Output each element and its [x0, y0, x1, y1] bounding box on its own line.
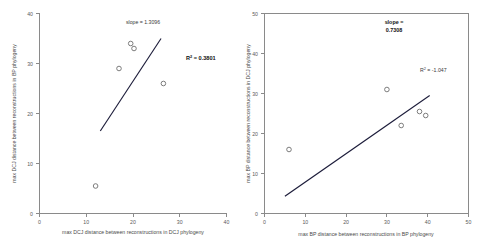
- y-tick-label-50: 50: [252, 11, 258, 17]
- y-axis-title: max BP distance between reconstructions …: [245, 44, 251, 183]
- y-tick-label-0: 0: [255, 211, 258, 217]
- slope-annotation: slope = 1.3096: [126, 19, 160, 25]
- data-point: [385, 87, 390, 92]
- y-tick-label-0: 0: [30, 211, 33, 217]
- x-tick-label-10: 10: [302, 219, 308, 225]
- data-point: [117, 66, 122, 71]
- x-tick-label-30: 30: [384, 219, 390, 225]
- slope-annotation-line1: slope =: [385, 19, 404, 25]
- y-tick-label-20: 20: [252, 131, 258, 137]
- x-tick-label-0: 0: [38, 219, 41, 225]
- slope-annotation: slope = 0.7308: [385, 19, 404, 33]
- data-point: [417, 109, 422, 114]
- x-tick-label-40: 40: [224, 219, 230, 225]
- data-point: [93, 184, 98, 189]
- chart-panel-right: 0 10 20 30 40 50 0 10 20 30 40 50: [242, 0, 484, 248]
- regression-line: [285, 96, 430, 197]
- regression-line: [100, 39, 161, 132]
- right-chart-x-ticks: 0 10 20 30 40 50: [263, 214, 471, 226]
- r-squared-annotation: R2 = -1.047: [420, 66, 447, 74]
- y-axis-title: max DCJ distance between reconstructions…: [11, 44, 17, 183]
- svg-text:R2 = -1.047: R2 = -1.047: [420, 66, 447, 74]
- data-points: [93, 41, 165, 188]
- data-points: [287, 87, 428, 152]
- x-tick-label-20: 20: [343, 219, 349, 225]
- right-chart-axes: [265, 14, 469, 214]
- scatter-plot-figure: 0 10 20 30 40 0 10 20 30 40 max DCJ dis: [0, 0, 484, 248]
- x-tick-label-30: 30: [177, 219, 183, 225]
- right-chart-svg: 0 10 20 30 40 50 0 10 20 30 40 50: [242, 0, 484, 248]
- x-tick-label-20: 20: [130, 219, 136, 225]
- y-tick-label-40: 40: [27, 11, 33, 17]
- r-squared-annotation: R2 = 0.3801: [186, 54, 216, 62]
- x-tick-label-40: 40: [425, 219, 431, 225]
- left-chart-svg: 0 10 20 30 40 0 10 20 30 40 max DCJ dis: [0, 0, 242, 248]
- y-tick-label-30: 30: [27, 61, 33, 67]
- axis-frame-box: [265, 14, 469, 214]
- x-axis-title: max DCJ distance between reconstructions…: [62, 229, 204, 235]
- left-chart-x-ticks: 0 10 20 30 40: [38, 214, 229, 226]
- x-axis-title: max BP distance between reconstructions …: [298, 231, 434, 237]
- x-tick-label-10: 10: [83, 219, 89, 225]
- r2-value: = -1.047: [426, 67, 447, 73]
- data-point: [287, 147, 292, 152]
- data-point: [128, 41, 133, 46]
- data-point: [161, 81, 166, 86]
- right-chart-y-ticks: 0 10 20 30 40 50: [252, 11, 264, 217]
- x-tick-label-0: 0: [263, 219, 266, 225]
- svg-text:R2 = 0.3801: R2 = 0.3801: [186, 54, 216, 62]
- r2-value: = 0.3801: [192, 55, 215, 61]
- data-point: [399, 123, 404, 128]
- y-tick-label-30: 30: [252, 91, 258, 97]
- data-point: [423, 113, 428, 118]
- left-chart-y-ticks: 0 10 20 30 40: [27, 11, 39, 217]
- data-point: [132, 46, 137, 51]
- slope-annotation-line2: 0.7308: [386, 27, 403, 33]
- y-tick-label-10: 10: [252, 171, 258, 177]
- y-tick-label-20: 20: [27, 111, 33, 117]
- y-tick-label-10: 10: [27, 161, 33, 167]
- x-tick-label-50: 50: [466, 219, 472, 225]
- y-tick-label-40: 40: [252, 51, 258, 57]
- chart-panel-left: 0 10 20 30 40 0 10 20 30 40 max DCJ dis: [0, 0, 242, 248]
